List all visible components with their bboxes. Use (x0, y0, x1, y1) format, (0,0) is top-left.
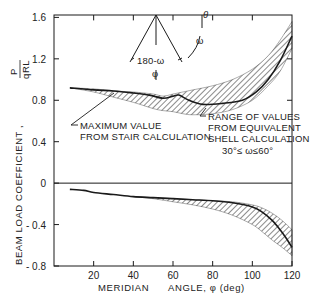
y-tick-label: - 0.8 (26, 261, 46, 272)
stair-annotation-line2: FROM STAIR CALCULATION (80, 131, 211, 142)
shell-annotation-line4: 30°≤ ω≤60° (222, 145, 273, 156)
shell-range-band (133, 197, 292, 256)
x-tick-label: 20 (88, 270, 100, 281)
svg-text:qRL: qRL (20, 60, 31, 79)
x-tick-label: 80 (207, 270, 219, 281)
y-axis-title: BEAM LOAD COEFFICIENT , P qRL (8, 60, 31, 265)
x-tick-label: 100 (244, 270, 261, 281)
y-tick-label: - 0.4 (26, 220, 46, 231)
y-tick-label: 0 (40, 178, 46, 189)
stair-annotation-line1: MAXIMUM VALUE (80, 120, 162, 131)
shell-annotation-line2: FROM EQUIVALENT (208, 122, 301, 133)
y-tick-label: 1.6 (32, 12, 46, 23)
theta-label: θ (203, 9, 209, 20)
omega-label: ω (196, 35, 204, 46)
x-axis-title-left: MERIDIAN (98, 282, 149, 293)
inset-diagram (130, 15, 202, 80)
svg-text:P: P (8, 68, 19, 75)
phi-label: φ (152, 68, 158, 79)
angle-label: 180-ω (137, 55, 165, 66)
y-tick-label: 0.8 (32, 95, 46, 106)
y-tick-label: 1.2 (32, 54, 46, 65)
shell-annotation-line3: SHELL CALCULATION (208, 133, 310, 144)
svg-text:BEAM LOAD COEFFICIENT ,: BEAM LOAD COEFFICIENT , (13, 125, 24, 265)
x-tick-label: 120 (284, 270, 301, 281)
shell-annotation-line1: RANGE OF VALUES (208, 111, 300, 122)
x-axis-title-right: ANGLE, φ (deg) (168, 282, 245, 293)
x-tick-label: 40 (128, 270, 140, 281)
y-tick-label: 0.4 (32, 137, 46, 148)
x-tick-label: 60 (167, 270, 179, 281)
beam-load-chart: 1.61.20.80.40- 0.4- 0.820406080100120 θ … (0, 0, 324, 296)
